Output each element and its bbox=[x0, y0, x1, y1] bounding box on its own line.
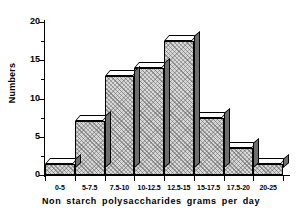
y-tick-label: 10 bbox=[14, 94, 40, 103]
y-tick-minor bbox=[41, 118, 45, 119]
x-tick-label: 20-25 bbox=[247, 184, 289, 191]
bar bbox=[45, 164, 75, 175]
y-tick-label: 20 bbox=[14, 17, 40, 26]
x-tick bbox=[134, 176, 135, 181]
x-tick bbox=[45, 176, 46, 181]
x-tick bbox=[164, 176, 165, 181]
bar bbox=[253, 164, 283, 175]
y-tick-minor bbox=[41, 156, 45, 157]
x-tick bbox=[283, 176, 284, 181]
x-axis-title: Non starch polysaccharides grams per day bbox=[0, 196, 302, 206]
y-tick-label: 0 bbox=[14, 170, 40, 179]
x-tick bbox=[75, 176, 76, 181]
x-tick bbox=[224, 176, 225, 181]
x-tick bbox=[105, 176, 106, 181]
bar bbox=[75, 121, 105, 175]
x-tick bbox=[194, 176, 195, 181]
y-tick-label: 5 bbox=[14, 132, 40, 141]
histogram-chart: Numbers 05101520 0-55-7.57.5-1010-12.512… bbox=[0, 0, 302, 217]
y-tick-minor bbox=[41, 41, 45, 42]
x-tick bbox=[253, 176, 254, 181]
y-tick-minor bbox=[41, 79, 45, 80]
y-tick-label: 15 bbox=[14, 55, 40, 64]
